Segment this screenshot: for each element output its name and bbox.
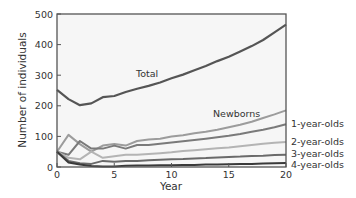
x-tick-label: 5 <box>111 169 117 180</box>
x-tick-label: 0 <box>54 169 60 180</box>
label-3-year-olds: 3-year-olds <box>291 148 344 159</box>
label-1-year-olds: 1-year-olds <box>291 118 344 129</box>
y-tick-label: 500 <box>35 9 53 20</box>
y-axis-title: Number of individuals <box>16 32 28 147</box>
y-tick-label: 400 <box>35 39 53 50</box>
label-2-year-olds: 2-year-olds <box>291 136 344 147</box>
x-axis-title: Year <box>159 180 183 192</box>
label-4-year-olds: 4-year-olds <box>291 159 344 170</box>
x-tick-label: 10 <box>165 169 177 180</box>
population-chart: 0100200300400500 05101520 Number of indi… <box>0 0 356 198</box>
y-tick-label: 200 <box>35 100 53 111</box>
y-tick-label: 0 <box>47 162 53 173</box>
label-newborns: Newborns <box>213 108 260 119</box>
y-tick-label: 100 <box>35 131 53 142</box>
label-total: Total <box>135 68 158 79</box>
x-tick-label: 15 <box>223 169 235 180</box>
y-tick-label: 300 <box>35 70 53 81</box>
x-tick-label: 20 <box>280 169 292 180</box>
